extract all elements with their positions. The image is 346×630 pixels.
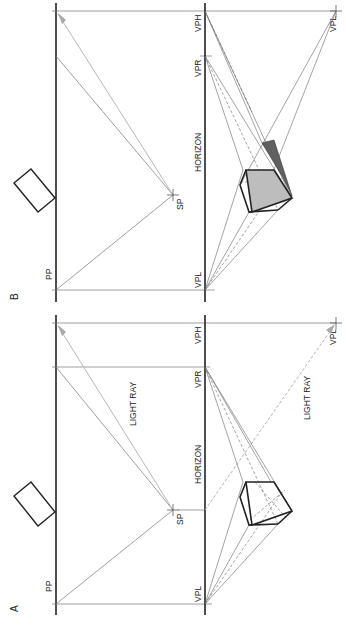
light-ray-arrowhead [58,13,66,24]
panel-b: B PP SP HORIZON VPH VPR VPL VPL [9,3,342,302]
sp-to-vpl-line [56,195,173,290]
light-ray-plan [58,326,173,510]
convergence-lines [205,367,292,604]
sp-label: SP [175,513,185,525]
vpl-label: VPL [193,586,203,602]
sp-to-vpr-line [56,367,173,510]
vph-label: VPH [193,327,203,344]
plan-object [14,482,55,526]
panel-a-label: A [9,605,20,612]
vph-label: VPH [193,15,203,32]
sp-label: SP [175,198,185,210]
perspective-shadow-diagram: B PP SP HORIZON VPH VPR VPL VPL [0,0,346,630]
plan-object [14,169,55,212]
vpr-label: VPR [193,371,203,388]
panel-b-label: B [9,293,20,300]
vpl-label: VPL [193,272,203,288]
sp-to-vpl-line [56,510,173,604]
vpr-label: VPR [193,60,203,77]
panel-a: A PP LIGHT RAY SP HORIZON VPH VPR VPL VP… [9,315,342,615]
light-ray-plan [58,14,173,195]
light-ray-arrowhead [58,325,66,336]
light-ray-label-2: LIGHT RAY [302,376,312,420]
horizon-label: HORIZON [193,445,203,484]
horizon-label: HORIZON [193,133,203,172]
pp-label: PP [44,580,54,592]
pp-label: PP [44,268,54,280]
sp-to-vpr-line [56,56,173,195]
cube-edges [240,482,292,525]
light-ray-label: LIGHT RAY [128,382,138,426]
